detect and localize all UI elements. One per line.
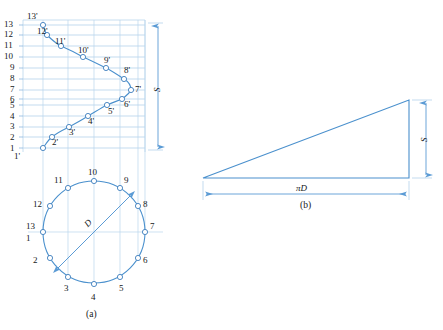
bottom-point-label-13: 13: [26, 222, 35, 231]
dimension-label-pid: πD: [296, 184, 307, 193]
axis-number-10: 10: [4, 52, 13, 61]
projection-vertical-lines: [43, 20, 145, 284]
bottom-point-label-7: 7: [150, 222, 155, 231]
drawing-surface: [0, 0, 443, 330]
bottom-point-label-10: 10: [88, 168, 97, 177]
front-view-horizontal-grid: [23, 25, 145, 148]
axis-number-5: 5: [10, 101, 15, 110]
axis-number-12: 12: [4, 30, 13, 39]
bottom-point-label-3: 3: [64, 284, 69, 293]
front-point-label-8p: 8': [124, 66, 130, 75]
dimension-label-s-development: S: [420, 138, 429, 143]
front-point-label-5p: 5': [108, 107, 114, 116]
front-point-label-11p: 11': [55, 37, 65, 46]
bottom-point-label-4: 4: [91, 293, 96, 302]
development-triangle: [203, 100, 409, 178]
bottom-point-label-8: 8: [143, 200, 148, 209]
front-point-label-6p: 6': [124, 100, 130, 109]
bottom-point-label-12: 12: [33, 200, 42, 209]
front-point-label-7p: 7': [135, 85, 141, 94]
bottom-point-label-6: 6: [143, 256, 148, 265]
front-point-label-13p: 13': [27, 12, 38, 21]
front-point-label-1p: 1': [14, 152, 20, 161]
axis-number-8: 8: [10, 74, 15, 83]
axis-number-4: 4: [10, 112, 15, 121]
front-point-label-4p: 4': [88, 117, 94, 126]
front-point-label-3p: 3': [69, 128, 75, 137]
front-point-label-9p: 9': [104, 56, 110, 65]
front-point-label-12p: 12': [37, 27, 48, 36]
dimension-label-s-front: S: [153, 88, 162, 93]
bottom-point-label-11: 11: [54, 176, 63, 185]
front-view-axis-ticks: [19, 25, 23, 148]
bottom-point-label-9: 9: [124, 176, 129, 185]
axis-number-9: 9: [10, 63, 15, 72]
axis-number-11: 11: [4, 41, 13, 50]
axis-number-2: 2: [10, 133, 15, 142]
axis-number-13: 13: [4, 20, 13, 29]
axis-number-3: 3: [10, 122, 15, 131]
figure-canvas: 13 12 11 10 9 8 7 6 5 4 3 2 1 13' 12' 11…: [0, 0, 443, 330]
bottom-point-label-1: 1: [26, 234, 31, 243]
axis-number-7: 7: [10, 85, 15, 94]
front-point-label-2p: 2': [52, 138, 58, 147]
front-point-label-10p: 10': [78, 46, 89, 55]
caption-a: (a): [86, 310, 97, 319]
caption-b: (b): [300, 201, 311, 210]
bottom-point-label-5: 5: [119, 284, 124, 293]
bottom-point-label-2: 2: [33, 256, 38, 265]
front-view-frame: [23, 20, 145, 152]
